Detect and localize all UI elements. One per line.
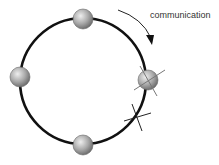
node-top <box>73 9 93 29</box>
node-left <box>10 67 30 87</box>
direction-arrow-icon <box>118 10 154 45</box>
node-bottom <box>73 135 93 155</box>
communication-label: communication <box>150 10 211 20</box>
ring-diagram <box>0 0 219 165</box>
ring <box>20 18 146 144</box>
link-break-cross-icon <box>124 104 151 131</box>
